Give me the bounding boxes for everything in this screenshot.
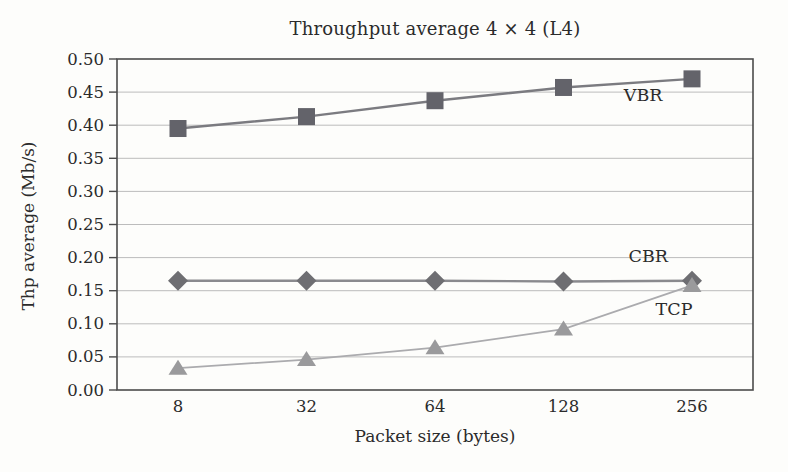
series-CBR-marker	[168, 271, 188, 291]
x-tick-label: 32	[296, 397, 317, 416]
y-tick-label: 0.15	[67, 281, 104, 300]
series-VBR-marker	[298, 108, 315, 125]
y-tick-label: 0.35	[67, 149, 104, 168]
series-VBR-marker	[427, 92, 444, 109]
x-tick-label: 8	[173, 397, 184, 416]
x-tick-label: 64	[425, 397, 446, 416]
series-CBR-marker	[554, 271, 574, 291]
series-label-VBR: VBR	[623, 85, 663, 105]
y-tick-label: 0.20	[67, 248, 104, 267]
series-TCP-marker	[554, 321, 573, 336]
plot-area: 0.000.050.100.150.200.250.300.350.400.45…	[0, 0, 788, 472]
y-tick-label: 0.00	[67, 381, 104, 400]
series-VBR-marker	[170, 120, 187, 137]
y-tick-label: 0.30	[67, 182, 104, 201]
y-tick-label: 0.40	[67, 116, 104, 135]
series-label-TCP: TCP	[656, 299, 693, 319]
series-CBR-marker	[425, 271, 445, 291]
y-tick-label: 0.50	[67, 50, 104, 69]
x-tick-label: 256	[676, 397, 708, 416]
x-tick-label: 128	[548, 397, 580, 416]
throughput-chart: Throughput average 4 × 4 (L4) Thp averag…	[0, 0, 788, 472]
y-tick-label: 0.05	[67, 347, 104, 366]
series-VBR-marker	[684, 70, 701, 87]
series-label-CBR: CBR	[629, 246, 669, 266]
y-tick-label: 0.25	[67, 215, 104, 234]
y-tick-label: 0.45	[67, 83, 104, 102]
series-CBR-marker	[297, 271, 317, 291]
series-VBR-marker	[555, 79, 572, 96]
x-axis-title: Packet size (bytes)	[117, 426, 753, 446]
series-TCP-line	[178, 285, 692, 368]
y-tick-label: 0.10	[67, 314, 104, 333]
